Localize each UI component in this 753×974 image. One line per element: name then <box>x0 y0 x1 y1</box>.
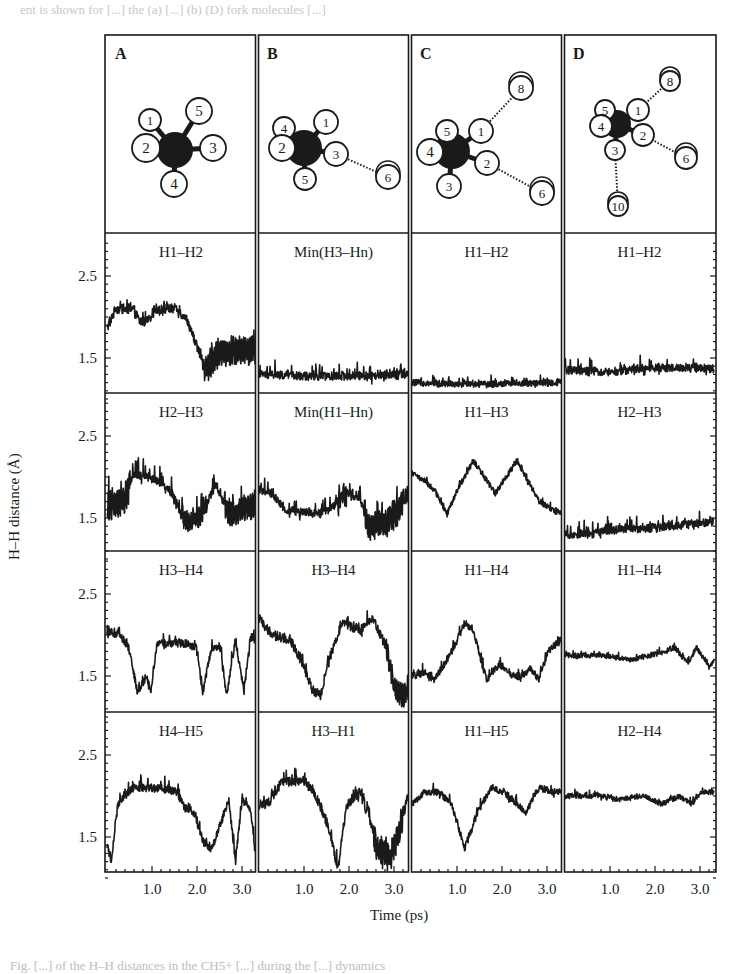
figure: ABCD 123454123565412368541236810 H1–H2Mi… <box>0 0 753 974</box>
panel-title: Min(H1–Hn) <box>294 404 373 421</box>
hydrogen-atom-1: 1 <box>627 99 649 121</box>
distance-trace <box>412 375 561 388</box>
panel-title: H2–H4 <box>617 723 662 739</box>
panel-title: H4–H5 <box>159 723 203 739</box>
hydrogen-atom-3: 3 <box>605 140 625 160</box>
plot-panel-B4: H3–H1 <box>259 723 408 871</box>
plot-panel-B3: H3–H4 <box>259 562 408 707</box>
distance-trace <box>565 511 714 538</box>
molecular-structures: 123454123565412368541236810 <box>132 67 697 216</box>
plot-panel-A3: H3–H4 <box>107 562 255 695</box>
hydrogen-atom-8: 8 <box>660 71 680 91</box>
hydrogen-atom-10: 10 <box>608 196 628 216</box>
carbon-atom <box>157 132 193 168</box>
hydrogen-atom-6: 6 <box>530 181 554 205</box>
svg-text:4: 4 <box>598 119 605 134</box>
svg-text:5: 5 <box>444 124 451 139</box>
plot-panel-D2: H2–H3 <box>565 404 714 538</box>
panel-title: H3–H4 <box>311 562 356 578</box>
svg-text:1: 1 <box>635 103 642 118</box>
distance-trace <box>412 621 561 683</box>
svg-text:2: 2 <box>640 128 647 143</box>
y-tick-label: 1.5 <box>78 510 97 526</box>
x-tick-label: 2.0 <box>646 881 665 897</box>
molecule-B: 412356 <box>269 110 400 190</box>
svg-text:1: 1 <box>323 115 330 130</box>
caption-fragment: Fig. [...] of the H–H distances in the C… <box>10 958 750 974</box>
svg-text:8: 8 <box>667 74 674 89</box>
svg-text:2: 2 <box>142 140 150 156</box>
svg-text:8: 8 <box>518 81 525 96</box>
hydrogen-atom-2: 2 <box>475 151 499 175</box>
svg-text:5: 5 <box>195 103 203 119</box>
distance-trace <box>107 626 255 695</box>
molecule-A: 12345 <box>132 98 226 197</box>
distance-trace <box>412 459 561 517</box>
hydrogen-atom-8: 8 <box>509 76 533 100</box>
hydrogen-atom-1: 1 <box>469 119 493 143</box>
distance-trace <box>259 768 408 871</box>
hydrogen-atom-3: 3 <box>200 135 226 161</box>
y-tick-label: 2.5 <box>78 268 97 284</box>
plot-panel-C3: H1–H4 <box>412 562 561 682</box>
plot-panel-B2: Min(H1–Hn) <box>259 404 408 540</box>
plot-panel-D3: H1–H4 <box>565 562 714 669</box>
svg-text:6: 6 <box>385 170 392 185</box>
svg-text:1: 1 <box>478 124 485 139</box>
distance-trace <box>107 300 255 381</box>
x-tick-label: 2.0 <box>188 881 207 897</box>
panel-title: H3–H1 <box>311 723 355 739</box>
x-tick-label: 3.0 <box>385 881 404 897</box>
y-tick-label: 1.5 <box>78 350 97 366</box>
y-tick-label: 2.5 <box>78 586 97 602</box>
x-tick-label: 1.0 <box>143 881 162 897</box>
hydrogen-atom-1: 1 <box>139 109 161 131</box>
hydrogen-atom-2: 2 <box>632 124 654 146</box>
hydrogen-atom-6: 6 <box>376 165 400 189</box>
svg-text:3: 3 <box>209 140 217 156</box>
panel-title: H1–H5 <box>464 723 508 739</box>
svg-text:1: 1 <box>147 113 154 128</box>
svg-text:6: 6 <box>683 151 690 166</box>
x-tick-label: 2.0 <box>340 881 359 897</box>
x-tick-label: 3.0 <box>691 881 710 897</box>
panel-title: Min(H3–Hn) <box>294 244 373 261</box>
panel-title: H1–H2 <box>617 244 661 260</box>
distance-trace <box>412 783 561 851</box>
svg-text:4: 4 <box>281 121 288 136</box>
plot-panel-B1: Min(H3–Hn) <box>259 244 408 384</box>
svg-text:3: 3 <box>333 147 340 162</box>
svg-text:2: 2 <box>484 156 491 171</box>
panel-title: H3–H4 <box>159 562 204 578</box>
x-tick-label: 1.0 <box>601 881 620 897</box>
svg-text:2: 2 <box>278 140 286 156</box>
distance-trace <box>107 775 255 865</box>
plot-panel-A2: H2–H3 <box>107 404 255 532</box>
hydrogen-atom-5: 5 <box>294 168 316 190</box>
y-tick-label: 1.5 <box>78 829 97 845</box>
panel-title: H2–H3 <box>617 404 661 420</box>
svg-text:10: 10 <box>612 199 625 214</box>
panel-title: H1–H2 <box>464 244 508 260</box>
distance-trace <box>259 360 408 384</box>
x-tick-label: 3.0 <box>233 881 252 897</box>
panel-title: H2–H3 <box>159 404 203 420</box>
y-tick-label: 1.5 <box>78 668 97 684</box>
panel-title: H1–H3 <box>464 404 508 420</box>
hydrogen-atom-2: 2 <box>132 134 160 162</box>
plot-panel-C4: H1–H5 <box>412 723 561 851</box>
hydrogen-atom-5: 5 <box>186 98 212 124</box>
distance-trace <box>565 355 714 376</box>
y-axis-label: H–H distance (Å) <box>6 453 23 560</box>
distance-trace <box>259 611 408 707</box>
x-tick-label: 3.0 <box>538 881 557 897</box>
svg-text:3: 3 <box>612 143 619 158</box>
distance-trace <box>107 458 255 532</box>
hydrogen-atom-3: 3 <box>324 142 348 166</box>
hydrogen-atom-4: 4 <box>161 171 187 197</box>
panel-letter: A <box>115 45 127 62</box>
panel-title: H1–H4 <box>464 562 509 578</box>
x-tick-label: 2.0 <box>493 881 512 897</box>
hydrogen-atom-1: 1 <box>314 110 338 134</box>
x-axis-label: Time (ps) <box>370 907 428 924</box>
